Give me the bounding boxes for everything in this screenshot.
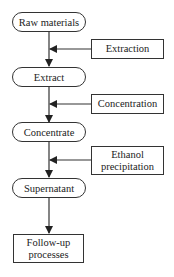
process-label-line2: precipitation: [101, 161, 154, 173]
process-label: Concentration: [98, 98, 157, 110]
process-extraction: Extraction: [91, 39, 164, 59]
process-concentration: Concentration: [91, 94, 164, 114]
process-label-line1: Ethanol: [111, 149, 144, 161]
step-label: Supernatant: [24, 183, 74, 194]
step-follow-up-processes: Follow-up processes: [13, 234, 84, 263]
process-ethanol-precipitation: Ethanol precipitation: [91, 146, 164, 175]
step-raw-materials: Raw materials: [12, 12, 86, 32]
step-label: Extract: [34, 72, 64, 83]
step-concentrate: Concentrate: [12, 122, 86, 142]
process-label: Extraction: [106, 43, 150, 55]
step-supernatant: Supernatant: [12, 178, 86, 198]
final-label-line2: processes: [28, 249, 68, 261]
final-label-line1: Follow-up: [27, 237, 71, 249]
step-extract: Extract: [12, 67, 86, 87]
step-label: Concentrate: [24, 127, 75, 138]
step-label: Raw materials: [19, 17, 79, 28]
